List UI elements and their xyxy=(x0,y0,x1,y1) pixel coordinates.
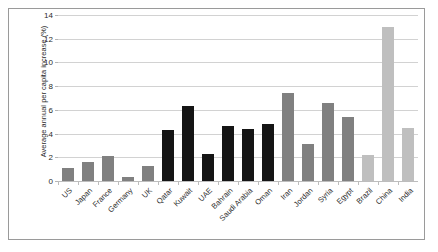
category-slot: UK xyxy=(138,182,158,238)
x-axis-label-brazil: Brazil xyxy=(355,186,375,206)
x-tick-mark xyxy=(278,182,279,185)
bar-uae xyxy=(202,154,215,181)
bar-japan xyxy=(82,162,95,181)
category-slot: Egypt xyxy=(338,182,358,238)
y-tick-label-12: 12 xyxy=(44,34,53,43)
bar-slot xyxy=(98,15,118,181)
category-slot: India xyxy=(398,182,418,238)
bar-slot xyxy=(158,15,178,181)
x-tick-mark xyxy=(158,182,159,185)
x-tick-mark xyxy=(58,182,59,185)
bar-slot xyxy=(398,15,418,181)
x-tick-mark xyxy=(338,182,339,185)
category-slot: Oman xyxy=(258,182,278,238)
x-axis-label-us: US xyxy=(61,186,75,200)
bar-syria xyxy=(322,103,335,181)
bar-slot xyxy=(78,15,98,181)
x-tick-mark xyxy=(118,182,119,185)
x-axis-label-iran: Iran xyxy=(279,186,295,202)
x-axis-label-uk: UK xyxy=(141,186,155,200)
x-axis-category-labels: USJapanFranceGermanyUKQatarKuwaitUAEBahr… xyxy=(58,182,418,238)
category-slot: Saudi Arabia xyxy=(238,182,258,238)
bar-kuwait xyxy=(182,106,195,181)
bar-slot xyxy=(278,15,298,181)
x-tick-mark xyxy=(378,182,379,185)
x-axis-label-china: China xyxy=(374,186,394,206)
bar-slot xyxy=(178,15,198,181)
category-slot: China xyxy=(378,182,398,238)
x-tick-mark xyxy=(238,182,239,185)
category-slot: Brazil xyxy=(358,182,378,238)
bar-bahrain xyxy=(222,126,235,181)
y-tick-label-14: 14 xyxy=(44,11,53,20)
bar-slot xyxy=(378,15,398,181)
category-slot: Qatar xyxy=(158,182,178,238)
x-tick-mark xyxy=(138,182,139,185)
x-tick-mark xyxy=(98,182,99,185)
bar-slot xyxy=(318,15,338,181)
chart-figure-frame: Average annual per capita increase (%) 0… xyxy=(8,8,425,240)
bar-germany xyxy=(122,177,135,181)
category-slot: Japan xyxy=(78,182,98,238)
category-slot: Jordan xyxy=(298,182,318,238)
x-axis-label-india: India xyxy=(396,186,414,204)
bar-india xyxy=(402,128,415,181)
bar-slot xyxy=(218,15,238,181)
x-tick-mark xyxy=(298,182,299,185)
bar-slot xyxy=(358,15,378,181)
x-tick-mark xyxy=(198,182,199,185)
y-tick-label-2: 2 xyxy=(49,153,53,162)
bar-slot xyxy=(298,15,318,181)
y-tick-label-8: 8 xyxy=(49,82,53,91)
bar-iran xyxy=(282,93,295,181)
category-slot: Syria xyxy=(318,182,338,238)
x-tick-mark xyxy=(258,182,259,185)
bar-qatar xyxy=(162,130,175,181)
bar-france xyxy=(102,156,115,181)
x-tick-mark xyxy=(398,182,399,185)
y-tick-label-4: 4 xyxy=(49,129,53,138)
category-slot: US xyxy=(58,182,78,238)
category-slot: Germany xyxy=(118,182,138,238)
bar-slot xyxy=(338,15,358,181)
y-tick-label-0: 0 xyxy=(49,177,53,186)
bar-slot xyxy=(58,15,78,181)
bar-uk xyxy=(142,166,155,181)
bar-slot xyxy=(198,15,218,181)
bar-jordan xyxy=(302,144,315,181)
bar-slot xyxy=(138,15,158,181)
bar-us xyxy=(62,168,75,181)
x-tick-mark xyxy=(78,182,79,185)
x-tick-mark xyxy=(318,182,319,185)
y-tick-label-10: 10 xyxy=(44,58,53,67)
bar-egypt xyxy=(342,117,355,181)
bar-slot xyxy=(238,15,258,181)
y-tick-label-6: 6 xyxy=(49,105,53,114)
category-slot: Iran xyxy=(278,182,298,238)
bar-slot xyxy=(258,15,278,181)
plot-area: 02468101214 xyxy=(58,15,418,181)
x-tick-mark xyxy=(178,182,179,185)
bar-china xyxy=(382,27,395,181)
x-tick-mark xyxy=(358,182,359,185)
x-tick-mark xyxy=(218,182,219,185)
bar-brazil xyxy=(362,155,375,181)
bar-oman xyxy=(262,124,275,181)
x-axis-label-egypt: Egypt xyxy=(334,186,354,206)
bar-slot xyxy=(118,15,138,181)
bar-saudi-arabia xyxy=(242,129,255,181)
bar-series xyxy=(58,15,418,181)
category-slot: Kuwait xyxy=(178,182,198,238)
x-axis-label-syria: Syria xyxy=(316,186,335,205)
